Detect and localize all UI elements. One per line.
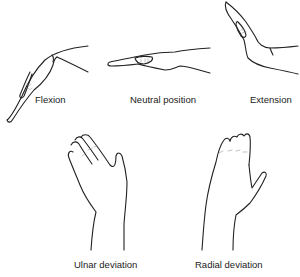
ulnar-deviation-hand-drawing (68, 135, 127, 250)
label-radial-deviation: Radial deviation (195, 260, 263, 270)
label-extension: Extension (250, 95, 292, 105)
label-neutral-position: Neutral position (130, 95, 196, 105)
extension-hand-drawing (225, 2, 298, 74)
neutral-hand-drawing (108, 48, 210, 73)
wrist-movement-illustrations (0, 0, 300, 277)
radial-deviation-hand-drawing (202, 134, 266, 250)
flexion-hand-drawing (7, 46, 88, 122)
label-ulnar-deviation: Ulnar deviation (74, 260, 137, 270)
label-flexion: Flexion (35, 95, 66, 105)
